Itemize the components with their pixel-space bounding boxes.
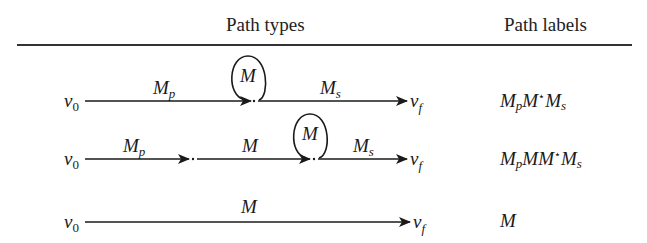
edge-label-mp: Mp — [152, 77, 176, 101]
edge-label-ms: Ms — [352, 135, 374, 159]
path-label-row-2: MpMM⋆Ms — [500, 148, 582, 172]
intermediate-node — [192, 158, 194, 160]
path-types-diagram: v0 Mp M Ms vf v0 Mp M M Ms vf v0 M vf — [0, 0, 647, 243]
edge-label-m: M — [241, 135, 259, 156]
loop-label-m: M — [301, 123, 319, 144]
edge-label-m: M — [240, 196, 258, 217]
path-row-3: v0 M vf — [64, 196, 427, 236]
end-node-vf: vf — [410, 148, 424, 173]
path-label-row-1: MpM⋆Ms — [500, 90, 566, 114]
path-row-2: v0 Mp M M Ms vf — [64, 114, 424, 173]
intermediate-node — [313, 158, 315, 160]
edge-label-ms: Ms — [319, 77, 341, 101]
edge-label-mp: Mp — [122, 135, 146, 159]
loop-label-m: M — [239, 65, 257, 86]
path-row-1: v0 Mp M Ms vf — [64, 56, 424, 115]
start-node-v0: v0 — [64, 90, 79, 114]
start-node-v0: v0 — [64, 148, 79, 172]
path-label-row-3: M — [500, 210, 516, 232]
end-node-vf: vf — [410, 90, 424, 115]
end-node-vf: vf — [413, 211, 427, 236]
intermediate-node — [253, 100, 255, 102]
start-node-v0: v0 — [64, 211, 79, 235]
